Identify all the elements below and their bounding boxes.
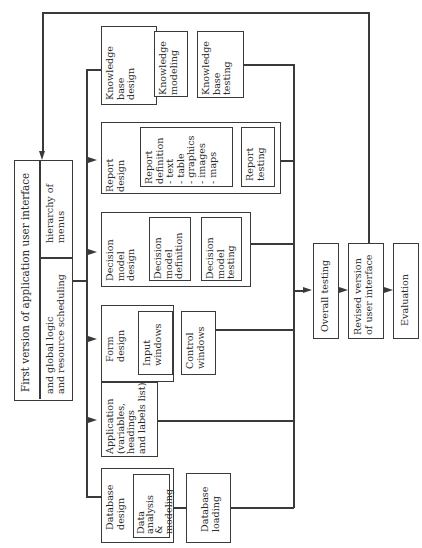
- decision-model-testing-label: Decision model testing: [205, 237, 237, 279]
- feedback-arrow-icon: [39, 151, 45, 160]
- control-windows-label: Control windows: [185, 326, 206, 369]
- overall-testing-label: Overall testing: [320, 260, 331, 332]
- collector-line: [293, 64, 295, 508]
- report-testing-label: Report testing: [245, 147, 266, 181]
- application-label: Application (variables, headings and lab…: [105, 383, 147, 454]
- bus-to-knowledge: [86, 69, 102, 71]
- arrow-to-revised-version-icon: [339, 287, 348, 293]
- knowledge-base-testing-label: Knowledge base testing: [201, 41, 233, 95]
- arrow-to-report-icon: [88, 157, 97, 163]
- database-design-label: Database design: [105, 485, 126, 530]
- main-to-bus-line: [72, 280, 87, 282]
- input-windows-label: Input windows: [142, 323, 163, 366]
- arrow-to-overall-testing-icon: [303, 287, 312, 293]
- revised-version-label: Revised version of user interface: [353, 255, 374, 335]
- feedback-line-left: [42, 12, 44, 152]
- main-box-title: First version of application user interf…: [20, 173, 31, 392]
- main-box-divider-horizontal: [40, 257, 72, 259]
- knowledge-to-collector: [244, 64, 294, 66]
- distribution-bus: [86, 69, 88, 497]
- main-box-divider-vertical: [39, 161, 41, 399]
- application-to-collector: [158, 420, 294, 422]
- arrow-to-form-icon: [88, 336, 97, 342]
- decision-to-collector: [251, 243, 294, 245]
- arrow-to-decision-icon: [88, 249, 97, 255]
- data-analysis-modeling-label: Data analysis & modeling: [136, 489, 173, 534]
- loading-to-collector: [231, 507, 294, 509]
- knowledge-base-design-label: Knowledge base design: [105, 46, 137, 100]
- main-box-global-logic: and global logic and resource scheduling: [45, 274, 66, 394]
- form-to-collector: [216, 329, 294, 331]
- feedback-line-top: [43, 12, 369, 14]
- report-definition-label: Report definition - text - table - graph…: [144, 136, 218, 184]
- form-design-label: Form design: [105, 330, 126, 362]
- report-design-label: Report design: [105, 159, 126, 192]
- knowledge-modeling-label: Knowledge modeling: [158, 41, 179, 95]
- evaluation-label: Evaluation: [400, 274, 411, 326]
- main-box-hierarchy-of-menus: hierarchy of menus: [45, 184, 66, 243]
- bus-to-database: [86, 496, 102, 498]
- database-loading-label: Database loading: [200, 487, 221, 532]
- decision-model-design-label: Decision model design: [105, 239, 137, 281]
- diagram-canvas: First version of application user interf…: [0, 0, 422, 548]
- arrow-to-application-icon: [88, 417, 97, 423]
- arrow-to-evaluation-icon: [384, 287, 393, 293]
- decision-model-definition-label: Decision model definition: [153, 233, 185, 279]
- feedback-line-right: [368, 12, 370, 244]
- database-to-loading-line: [173, 507, 186, 509]
- collector-to-overall-testing: [294, 290, 304, 292]
